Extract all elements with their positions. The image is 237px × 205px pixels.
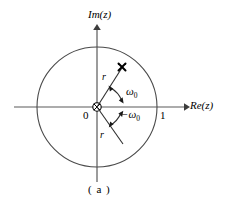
omega-subscript: 0: [134, 91, 138, 100]
origin-label: 0: [83, 110, 89, 121]
figure-caption: ( a ): [88, 184, 111, 195]
omega-glyph: ω: [126, 85, 134, 97]
imaginary-axis-label: Im(z): [88, 9, 111, 20]
real-axis-label: Re(z): [190, 100, 213, 111]
angle-label-negative-omega: −ω0: [121, 109, 140, 120]
unit-tick-label: 1: [160, 110, 166, 121]
negative-omega-glyph: −ω: [121, 108, 136, 120]
pole-zero-figure: Im(z) Re(z) 1 0 r r ω0 −ω0 ( a ): [0, 0, 237, 205]
negative-omega-subscript: 0: [136, 114, 140, 123]
radius-label-lower: r: [100, 130, 104, 140]
angle-arc-omega: [109, 86, 124, 104]
angle-label-omega: ω0: [126, 86, 138, 97]
radius-label-upper: r: [102, 72, 106, 82]
pole-marker-x: [119, 64, 126, 71]
